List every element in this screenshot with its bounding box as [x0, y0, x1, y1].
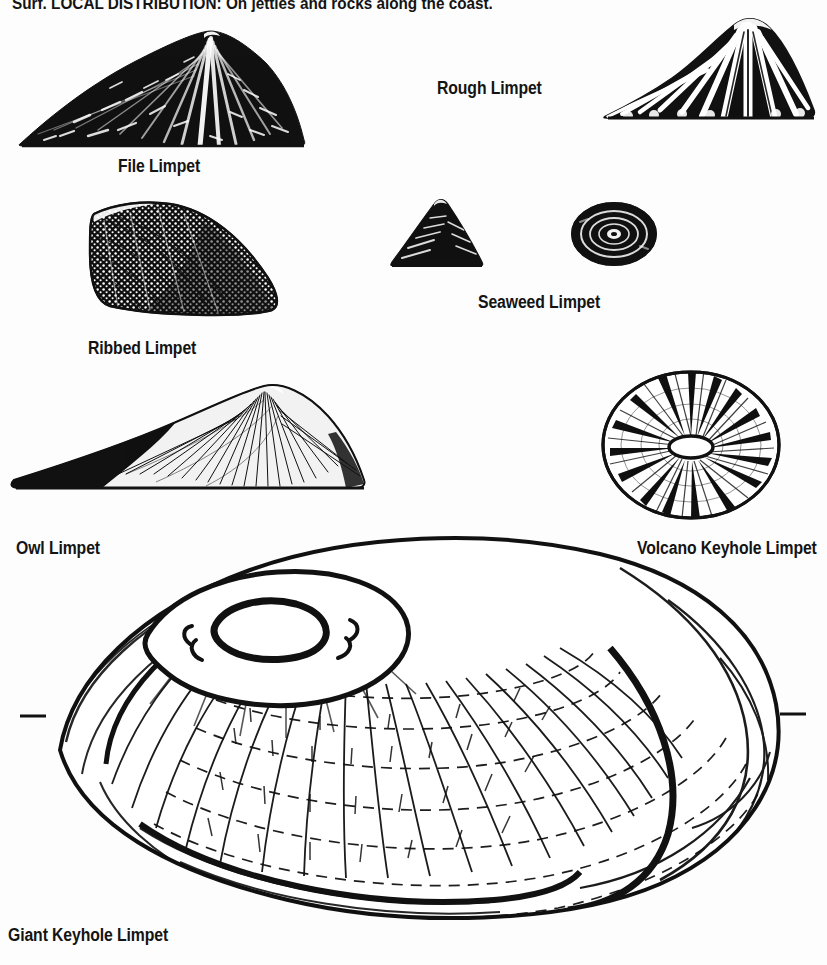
figure-owl-limpet	[6, 372, 378, 496]
caption-giant-keyhole-limpet: Giant Keyhole Limpet	[8, 925, 168, 946]
figure-file-limpet	[14, 18, 314, 150]
caption-ribbed-limpet: Ribbed Limpet	[88, 338, 196, 359]
caption-file-limpet: File Limpet	[118, 156, 200, 177]
figure-ribbed-limpet	[84, 192, 292, 322]
figure-seaweed-limpet-top	[568, 198, 660, 270]
plate-page: Surf. LOCAL DISTRIBUTION: On jetties and…	[0, 0, 827, 965]
caption-rough-limpet: Rough Limpet	[437, 78, 542, 99]
top-text-line: Surf. LOCAL DISTRIBUTION: On jetties and…	[12, 0, 493, 14]
figure-giant-keyhole-limpet	[20, 528, 810, 928]
caption-seaweed-limpet: Seaweed Limpet	[478, 292, 600, 313]
figure-seaweed-limpet-side	[386, 192, 490, 272]
figure-rough-limpet	[598, 12, 827, 128]
figure-volcano-keyhole-limpet	[596, 366, 786, 524]
